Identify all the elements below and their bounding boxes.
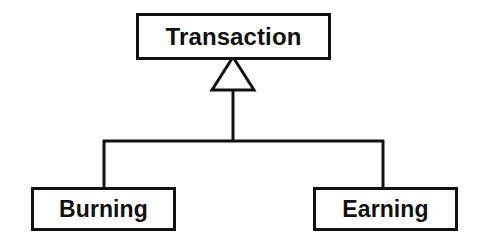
uml-class-diagram: Transaction Burning Earning [0,0,479,252]
class-name-transaction: Transaction [166,25,302,49]
class-name-earning: Earning [342,198,428,221]
class-box-earning[interactable]: Earning [313,187,458,231]
class-box-burning[interactable]: Burning [31,187,176,231]
class-name-burning: Burning [59,198,148,221]
generalization-triangle-icon [212,57,254,90]
class-box-transaction[interactable]: Transaction [136,13,331,60]
